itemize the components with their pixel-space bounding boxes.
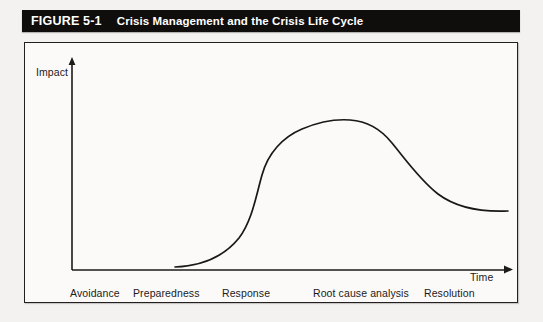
figure-page: FIGURE 5-1 Crisis Management and the Cri… bbox=[0, 0, 543, 322]
x-axis-label: Time bbox=[470, 271, 493, 283]
phase-label-preparedness: Preparedness bbox=[133, 287, 200, 299]
figure-frame bbox=[24, 42, 518, 303]
figure-number-label: FIGURE 5-1 bbox=[31, 14, 102, 28]
figure-title-label: Crisis Management and the Crisis Life Cy… bbox=[117, 15, 364, 27]
phase-label-response: Response bbox=[222, 287, 270, 299]
phase-label-avoidance: Avoidance bbox=[70, 287, 120, 299]
phase-label-root-cause-analysis: Root cause analysis bbox=[313, 287, 409, 299]
figure-title-bar: FIGURE 5-1 Crisis Management and the Cri… bbox=[22, 10, 520, 32]
phase-label-resolution: Resolution bbox=[424, 287, 475, 299]
y-axis-label: Impact bbox=[36, 66, 68, 78]
